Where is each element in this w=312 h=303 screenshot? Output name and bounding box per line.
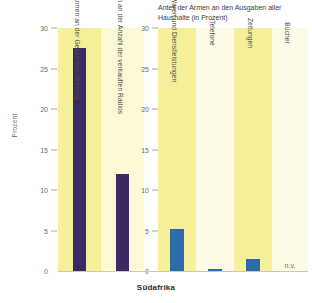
chart-page: Prozent 30 25 20 15 10 5 0 Anteil der Ar…: [0, 0, 312, 303]
y-tick-mark: [51, 68, 57, 69]
y-tick-label: 15: [125, 146, 149, 153]
bar: [246, 259, 260, 271]
bar-column: Alle Waren und Dienstleistungen: [158, 28, 196, 271]
y-tick-mark: [51, 230, 57, 231]
y-tick-label: 25: [125, 65, 149, 72]
bar-category-label: Bücher: [283, 22, 290, 44]
bar-category-label: Alle Waren und Dienstleistungen: [170, 0, 177, 82]
y-axis-right: 30 25 20 15 10 5 0: [128, 0, 158, 303]
y-tick-label: 5: [24, 227, 48, 234]
bar-column: Anteil der Armen an der Gesamtbevölkerun…: [58, 28, 101, 271]
bar-category-label: Zeitungen: [246, 18, 253, 48]
bar-column: Telefone: [196, 28, 234, 271]
bar: [208, 269, 222, 271]
y-tick-label: 10: [24, 187, 48, 194]
y-tick-mark: [51, 28, 57, 29]
bar-column: Zeitungen: [234, 28, 272, 271]
y-tick-mark: [51, 190, 57, 191]
y-axis-left: Prozent 30 25 20 15 10 5 0: [0, 0, 58, 303]
bar-column: Bücher n.v.: [272, 28, 308, 271]
y-tick-mark: [51, 149, 57, 150]
chart-caption: Südafrika: [0, 283, 312, 292]
y-tick-label: 0: [24, 268, 48, 275]
bar-category-label: Telefone: [208, 20, 215, 46]
bar: [170, 229, 184, 271]
x-axis-baseline: [58, 271, 308, 272]
missing-value-label: n.v.: [285, 262, 296, 269]
bar-category-label: Anteil der Armen an der Gesamtbevölkerun…: [73, 0, 80, 100]
y-tick-label: 15: [24, 146, 48, 153]
y-tick-label: 30: [24, 25, 48, 32]
y-axis-label: Prozent: [11, 96, 18, 156]
y-tick-label: 30: [125, 25, 149, 32]
bar-category-label: Anteil der Armen an der Anzahl der verka…: [116, 0, 123, 114]
y-tick-label: 20: [125, 106, 149, 113]
bar: [116, 174, 129, 271]
y-tick-mark: [51, 109, 57, 110]
right-chart-title: Anteil der Armen an den Ausgaben aller H…: [158, 3, 310, 23]
y-tick-label: 25: [24, 65, 48, 72]
y-tick-label: 20: [24, 106, 48, 113]
right-bar-chart: Alle Waren und Dienstleistungen Telefone…: [158, 28, 308, 271]
